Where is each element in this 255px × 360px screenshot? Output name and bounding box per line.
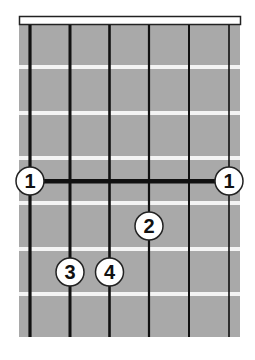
nut — [20, 17, 241, 25]
finger-dot-1-high: 1 — [215, 167, 243, 195]
fret-line — [19, 156, 240, 160]
finger-label: 1 — [223, 170, 234, 192]
fret-line — [19, 201, 240, 205]
finger-dot-1-low: 1 — [16, 167, 44, 195]
fret-line — [19, 292, 240, 296]
finger-label: 1 — [24, 170, 35, 192]
finger-label: 2 — [143, 215, 154, 237]
fret-line — [19, 247, 240, 251]
finger-label: 3 — [64, 261, 75, 283]
finger-dot-3: 3 — [56, 258, 84, 286]
finger-dot-4: 4 — [96, 258, 124, 286]
barre-bar — [30, 179, 229, 184]
finger-label: 4 — [104, 261, 116, 283]
chord-diagram: 1 1 2 3 4 — [0, 0, 255, 360]
fret-line — [19, 65, 240, 69]
fret-line — [19, 111, 240, 115]
finger-dot-2: 2 — [135, 212, 163, 240]
